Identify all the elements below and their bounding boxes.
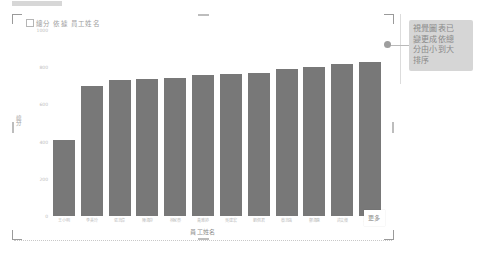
x-axis-tick-label: 陳淑芬	[136, 217, 158, 223]
y-axis-tick-label: 0	[45, 214, 48, 219]
x-axis-tick-label: 吳建宏	[220, 217, 242, 223]
resize-handle-top-center[interactable]	[198, 14, 209, 16]
callout-line: 視覺圖表已	[413, 24, 470, 35]
bar[interactable]	[248, 73, 270, 216]
x-axis-tick-label: 張志偉	[109, 217, 131, 223]
bar-slot	[81, 30, 103, 216]
bar[interactable]	[136, 79, 158, 216]
callout-anchor-dot	[384, 41, 391, 48]
y-axis-tick-label: 600	[39, 102, 48, 107]
bar-slot	[192, 30, 214, 216]
bar[interactable]	[192, 75, 214, 216]
chart-title: 總分 依據 員工姓名	[26, 18, 100, 28]
top-strip-decoration	[12, 1, 62, 6]
x-axis-tick-label: 劉佩君	[248, 217, 270, 223]
y-axis-ticks: 02004006008001000	[26, 30, 48, 216]
bar-slot	[276, 30, 298, 216]
bar[interactable]	[359, 62, 381, 216]
x-axis-tick-label: 蔡志強	[276, 217, 298, 223]
bar-slot	[164, 30, 186, 216]
bar-slot	[331, 30, 353, 216]
chart-object-frame[interactable]: 總分 依據 員工姓名 總分 02004006008001000 王小明李美玲張志…	[12, 14, 394, 240]
callout-line: 變更成依總	[413, 35, 470, 46]
y-axis-tick-label: 200	[39, 176, 48, 181]
bar-slot	[248, 30, 270, 216]
resize-handle-top-right[interactable]	[384, 14, 394, 24]
bar[interactable]	[53, 140, 75, 216]
bar[interactable]	[109, 80, 131, 216]
bar-slot	[53, 30, 75, 216]
callout-line: 排序	[413, 56, 470, 67]
x-axis-tick-label: 王小明	[53, 217, 75, 223]
bar[interactable]	[331, 64, 353, 216]
bar[interactable]	[220, 74, 242, 216]
bar[interactable]	[303, 67, 325, 216]
bar[interactable]	[276, 69, 298, 216]
chart-icon	[26, 19, 34, 27]
bar-series[interactable]	[50, 30, 384, 216]
bar[interactable]	[164, 78, 186, 216]
bar-slot	[109, 30, 131, 216]
bar-slot	[136, 30, 158, 216]
bar-slot	[359, 30, 381, 216]
resize-handle-top-left[interactable]	[12, 14, 22, 24]
x-axis-labels: 王小明李美玲張志偉陳淑芬林家豪黃雅婷吳建宏劉佩君蔡志強鄭淑惠許文傑周怡君	[50, 217, 384, 227]
y-axis-tick-label: 1000	[37, 28, 48, 33]
x-axis-tick-label: 林家豪	[164, 217, 186, 223]
resize-handle-middle-right[interactable]	[392, 122, 394, 133]
callout-annotation: 視覺圖表已 變更成依總 分由小到大 排序	[409, 20, 473, 71]
x-axis-tick-label: 許文傑	[331, 217, 353, 223]
frame-underline	[14, 240, 392, 241]
bar-slot	[303, 30, 325, 216]
y-axis-tick-label: 800	[39, 65, 48, 70]
x-axis-tick-label: 李美玲	[81, 217, 103, 223]
bar[interactable]	[81, 86, 103, 216]
callout-guide-line	[400, 14, 401, 84]
callout-line: 分由小到大	[413, 45, 470, 56]
callout-connector-line	[390, 45, 410, 46]
y-axis-tick-label: 400	[39, 139, 48, 144]
x-axis-tick-label: 鄭淑惠	[303, 217, 325, 223]
x-axis-tick-label: 黃雅婷	[192, 217, 214, 223]
bar-slot	[220, 30, 242, 216]
resize-handle-middle-left[interactable]	[12, 122, 14, 133]
more-options-chip[interactable]: 更多	[364, 210, 385, 226]
x-axis-title: 員工姓名	[12, 227, 394, 236]
y-axis-title: 總分	[16, 115, 21, 125]
